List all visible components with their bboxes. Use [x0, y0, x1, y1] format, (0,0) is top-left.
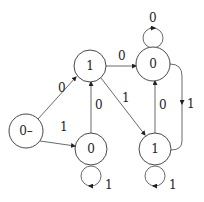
edge-A-B: 0 — [38, 77, 76, 119]
self-loop-C: 0 — [143, 11, 163, 48]
state-node-C: 0 — [136, 47, 170, 81]
edge-label: 0 — [58, 81, 66, 95]
self-loop-E: 1 — [145, 166, 177, 192]
edge-label: 0 — [95, 98, 103, 112]
edge-B-E: 1 — [101, 78, 145, 135]
edge-label: 0 — [159, 98, 167, 112]
edge-label: 1 — [122, 91, 130, 105]
edge-label: 1 — [169, 178, 177, 192]
edge-label: 1 — [105, 178, 113, 192]
edge-E-C: 0 — [155, 81, 167, 133]
edge-label: 0 — [118, 49, 126, 63]
node-label: 0 — [87, 142, 95, 156]
node-label: 1 — [151, 142, 159, 156]
self-loop-D: 1 — [81, 166, 113, 192]
edge-B-C: 0 — [106, 49, 136, 66]
edge-D-B: 0 — [91, 82, 103, 133]
node-label: 0– — [19, 124, 33, 138]
state-node-A: 0– — [9, 114, 43, 148]
node-label: 1 — [86, 59, 94, 73]
state-node-E: 1 — [139, 133, 171, 165]
state-diagram: 0 1 0 0 1 0 1 0 1 1 — [0, 0, 204, 202]
edge-label: 1 — [60, 120, 68, 134]
state-node-D: 0 — [75, 133, 107, 165]
edge-C-E: 1 — [170, 64, 195, 150]
edge-A-D: 1 — [40, 120, 75, 146]
edge-label: 1 — [187, 97, 195, 111]
node-label: 0 — [149, 57, 157, 71]
edge-label: 0 — [149, 11, 157, 25]
state-node-B: 1 — [74, 50, 106, 82]
